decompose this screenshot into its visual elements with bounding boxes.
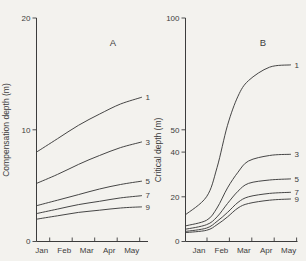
curve-label-a-9: 9 <box>146 203 151 212</box>
y-tick-label-a-0: 0 <box>26 237 31 246</box>
curve-label-b-5: 5 <box>295 175 300 184</box>
x-tick-label-b-may: May <box>281 246 296 255</box>
curve-label-b-3: 3 <box>295 150 300 159</box>
curve-a-5 <box>37 181 142 206</box>
curve-b-5 <box>186 179 291 229</box>
y-tick-label-a-10: 10 <box>22 126 31 135</box>
y-tick-label-b-0: 0 <box>175 237 180 246</box>
panel-letter-a: A <box>110 37 117 48</box>
curve-label-b-1: 1 <box>295 61 300 70</box>
y-tick-label-b-100: 100 <box>166 14 180 23</box>
curve-a-1 <box>37 97 142 152</box>
curve-label-a-7: 7 <box>146 191 151 200</box>
curve-label-a-5: 5 <box>146 177 151 186</box>
curve-b-9 <box>186 199 291 233</box>
curve-label-b-9: 9 <box>295 195 300 204</box>
y-tick-label-a-20: 20 <box>22 14 31 23</box>
panel-b: 0204050100JanFebMarAprMay13579Critical d… <box>153 14 300 255</box>
curve-b-7 <box>186 192 291 231</box>
curve-b-1 <box>186 65 291 215</box>
curve-label-a-3: 3 <box>146 138 151 147</box>
x-tick-label-a-may: May <box>124 246 139 255</box>
x-tick-label-b-feb: Feb <box>215 246 229 255</box>
x-tick-label-a-mar: Mar <box>80 246 94 255</box>
x-tick-label-a-apr: Apr <box>103 246 116 255</box>
panel-letter-b: B <box>260 37 266 48</box>
y-tick-label-b-50: 50 <box>171 126 180 135</box>
y-axis-title-a: Compensation depth (m) <box>1 83 11 177</box>
curve-label-a-1: 1 <box>146 93 151 102</box>
y-axis-title-b: Critical depth (m) <box>153 117 163 182</box>
y-tick-label-b-40: 40 <box>171 148 180 157</box>
curve-b-3 <box>186 154 291 226</box>
two-panel-depth-chart: 01020JanFebMarAprMay13579Compensation de… <box>0 0 306 261</box>
curve-a-9 <box>37 207 142 219</box>
y-tick-label-b-20: 20 <box>171 193 180 202</box>
x-tick-label-b-apr: Apr <box>260 246 273 255</box>
panel-a: 01020JanFebMarAprMay13579Compensation de… <box>1 14 151 255</box>
figure-canvas: 01020JanFebMarAprMay13579Compensation de… <box>0 0 306 261</box>
curve-a-3 <box>37 142 142 183</box>
x-tick-label-b-mar: Mar <box>237 246 251 255</box>
x-tick-label-b-jan: Jan <box>193 246 206 255</box>
x-tick-label-a-jan: Jan <box>35 246 48 255</box>
x-tick-label-a-feb: Feb <box>57 246 71 255</box>
